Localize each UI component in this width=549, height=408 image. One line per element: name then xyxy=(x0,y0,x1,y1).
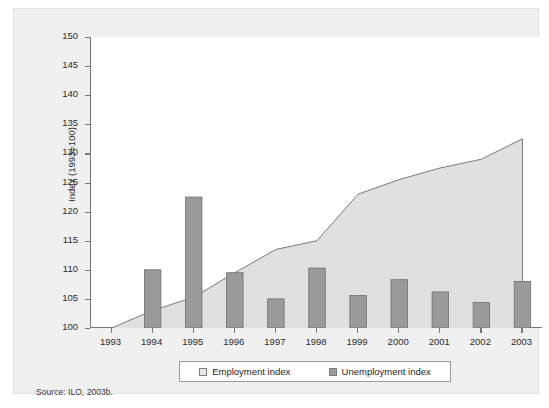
y-axis-tick-mark xyxy=(85,124,90,125)
x-axis-tick-label: 1999 xyxy=(337,336,377,347)
y-axis-tick-label: 120 xyxy=(62,205,78,216)
x-axis-tick-mark xyxy=(152,328,153,333)
x-axis-tick-mark xyxy=(316,328,317,333)
y-axis-tick: 120 xyxy=(14,212,90,213)
x-axis-tick-label: 2002 xyxy=(460,336,500,347)
y-axis-tick-label: 145 xyxy=(62,59,78,70)
y-axis-tick-label: 110 xyxy=(63,263,78,274)
employment-swatch-icon xyxy=(199,368,207,376)
y-axis-tick: 135 xyxy=(14,124,90,125)
y-axis-tick-mark xyxy=(85,299,90,300)
x-axis-tick-mark xyxy=(193,328,194,333)
legend-label-employment: Employment index xyxy=(212,366,290,377)
unemployment-bar xyxy=(268,299,284,328)
y-axis-tick-label: 100 xyxy=(62,321,78,332)
y-axis-tick-label: 125 xyxy=(62,176,78,187)
unemployment-bar xyxy=(391,280,407,328)
y-axis-tick-mark xyxy=(85,95,90,96)
x-axis-tick-label: 1996 xyxy=(214,336,254,347)
y-axis-tick: 130 xyxy=(14,153,90,154)
legend-item-unemployment: Unemployment index xyxy=(329,366,431,377)
y-axis-tick-mark xyxy=(85,183,90,184)
x-axis-tick-mark xyxy=(111,328,112,333)
y-axis-tick: 140 xyxy=(14,95,90,96)
y-axis-tick-label: 115 xyxy=(63,234,78,245)
y-axis-tick: 105 xyxy=(14,299,90,300)
x-axis-tick-label: 1994 xyxy=(132,336,172,347)
y-axis-tick-label: 130 xyxy=(62,146,78,157)
x-axis-tick-label: 2003 xyxy=(501,336,541,347)
y-axis-tick: 100 xyxy=(14,328,90,329)
unemployment-bar xyxy=(144,270,160,328)
x-axis-tick-mark xyxy=(275,328,276,333)
x-axis-tick-mark xyxy=(357,328,358,333)
unemployment-bar xyxy=(432,292,448,328)
y-axis-tick: 125 xyxy=(14,183,90,184)
y-axis-tick-mark xyxy=(85,270,90,271)
unemployment-bar xyxy=(227,273,243,328)
x-axis: 1993199419951996199719981999200020012002… xyxy=(90,328,542,354)
x-axis-tick-label: 1997 xyxy=(255,336,295,347)
x-axis-tick-label: 1993 xyxy=(91,336,131,347)
y-axis-tick-label: 140 xyxy=(62,88,78,99)
x-axis-tick-mark xyxy=(480,328,481,333)
y-axis-tick: 145 xyxy=(14,66,90,67)
y-axis-tick-label: 135 xyxy=(62,117,78,128)
x-axis-tick-label: 2000 xyxy=(378,336,418,347)
y-axis-tick-mark xyxy=(85,241,90,242)
y-axis-tick-mark xyxy=(85,153,90,154)
x-axis-tick-label: 2001 xyxy=(419,336,459,347)
legend-item-employment: Employment index xyxy=(199,366,290,377)
x-axis-tick-label: 1998 xyxy=(296,336,336,347)
unemployment-bar xyxy=(473,302,489,328)
x-axis-tick-mark xyxy=(234,328,235,333)
y-axis-tick-label: 105 xyxy=(62,292,78,303)
unemployment-bar xyxy=(309,268,325,328)
source-note: Source: ILO, 2003b. xyxy=(36,387,113,397)
y-axis-tick: 115 xyxy=(14,241,90,242)
unemployment-bar xyxy=(186,197,202,328)
y-axis-tick-label: 150 xyxy=(62,30,78,41)
unemployment-swatch-icon xyxy=(329,368,337,376)
plot-panel xyxy=(90,37,542,328)
chart-card: Index (1993=100) 10010511011512012513013… xyxy=(13,8,539,394)
y-axis-tick-mark xyxy=(85,66,90,67)
x-axis-tick-mark xyxy=(398,328,399,333)
chart-legend: Employment index Unemployment index xyxy=(179,361,451,382)
x-axis-tick-mark xyxy=(439,328,440,333)
x-axis-tick-mark xyxy=(521,328,522,333)
y-axis-tick-mark xyxy=(85,212,90,213)
chart-svg xyxy=(91,37,543,328)
figure-container: Index (1993=100) 10010511011512012513013… xyxy=(0,0,549,408)
legend-label-unemployment: Unemployment index xyxy=(342,366,431,377)
y-axis-tick-mark xyxy=(85,37,90,38)
unemployment-bar xyxy=(514,281,530,328)
x-axis-tick-label: 1995 xyxy=(173,336,213,347)
figure-caption-partial xyxy=(70,0,370,7)
y-axis-tick: 150 xyxy=(14,37,90,38)
unemployment-bar xyxy=(350,295,366,328)
y-axis-tick: 110 xyxy=(14,270,90,271)
